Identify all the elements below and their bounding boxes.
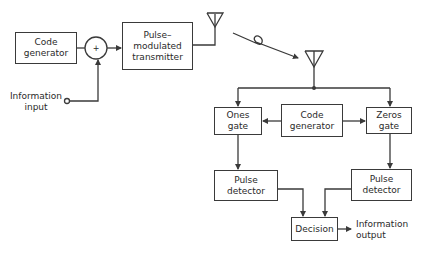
- transmitter-label-1: Pulse–: [132, 30, 183, 41]
- tx-code-generator-label-2: generator: [24, 48, 68, 59]
- zeros-gate-block: Zerosgate: [366, 107, 412, 134]
- information-input-line1: Information: [8, 91, 64, 102]
- ones-gate-label-2: gate: [226, 121, 249, 132]
- information-output-label: Information output: [356, 219, 408, 241]
- rx-code-generator-label-2: generator: [290, 121, 334, 132]
- pulse-detector-right-block: Pulsedetector: [351, 169, 412, 201]
- tx-code-generator-block: Codegenerator: [15, 32, 77, 64]
- pulse-modulated-transmitter-block: Pulse–modulatedtransmitter: [122, 22, 193, 70]
- information-output-line2: output: [356, 230, 408, 241]
- ones-gate-label-1: Ones: [226, 110, 249, 121]
- zeros-gate-label-2: gate: [376, 121, 401, 132]
- information-output-line1: Information: [356, 219, 408, 230]
- information-input-line2: input: [8, 102, 64, 113]
- pulse-detector-left-block: Pulsedetector: [214, 170, 278, 201]
- tx-code-generator-label-1: Code: [24, 37, 68, 48]
- ones-gate-block: Onesgate: [214, 107, 262, 135]
- pulse-detector-right-label-2: detector: [363, 185, 401, 196]
- pulse-detector-left-label-2: detector: [227, 186, 265, 197]
- decision-label: Decision: [295, 224, 333, 235]
- pulse-detector-left-label-1: Pulse: [227, 175, 265, 186]
- transmitter-label-3: transmitter: [132, 52, 183, 63]
- transmitter-label-2: modulated: [132, 41, 183, 52]
- information-input-label: Information input: [8, 91, 64, 113]
- decision-block: Decision: [291, 217, 338, 241]
- rx-code-generator-block: Codegenerator: [281, 104, 343, 137]
- rx-code-generator-label-1: Code: [290, 110, 334, 121]
- svg-text:+: +: [93, 44, 100, 53]
- pulse-detector-right-label-1: Pulse: [363, 174, 401, 185]
- zeros-gate-label-1: Zeros: [376, 110, 401, 121]
